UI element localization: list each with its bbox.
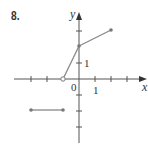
closed-endpoint-dot <box>109 28 113 32</box>
y-axis-arrow-icon <box>76 12 82 20</box>
x-tick-label-1: 1 <box>93 84 99 96</box>
closed-endpoint-dot <box>29 108 33 112</box>
function-graph: y x 0 1 1 <box>0 0 148 152</box>
closed-endpoint-dot <box>77 44 81 48</box>
open-endpoint-circle <box>61 77 65 81</box>
x-axis-label: x <box>141 80 148 94</box>
origin-label: 0 <box>71 81 77 93</box>
y-axis-label: y <box>69 7 76 21</box>
rising-segment <box>64 46 79 77</box>
gentle-segment <box>79 30 111 46</box>
closed-endpoint-dot <box>61 108 65 112</box>
y-tick-label-1: 1 <box>84 57 90 69</box>
